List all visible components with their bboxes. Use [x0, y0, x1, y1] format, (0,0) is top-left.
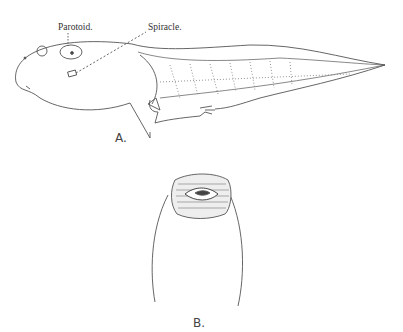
- body-tail-boundary: [140, 55, 157, 104]
- parotoid-pore: [71, 52, 74, 55]
- beak-opening: [195, 191, 210, 196]
- figure-b-mouth-view: [152, 174, 242, 306]
- tail-fin-upper: [132, 44, 385, 65]
- spiracle-leader-line: [76, 32, 146, 73]
- hind-leg: [149, 100, 215, 123]
- tadpole-plate: Parotoid. Spiracle. A. B.: [0, 0, 403, 332]
- tadpole-body-outline: [16, 42, 150, 138]
- tail-fin-lower: [215, 65, 385, 109]
- tail-myotomes: [160, 61, 350, 98]
- figure-a-tadpole: [16, 32, 385, 138]
- spiracle: [68, 70, 77, 77]
- eye-icon: [37, 46, 47, 56]
- parotoid-label: Parotoid.: [58, 22, 93, 32]
- figure-b-label: B.: [193, 316, 205, 330]
- mouth: [26, 86, 30, 89]
- spiracle-label: Spiracle.: [148, 22, 182, 32]
- nostril: [24, 57, 26, 59]
- figure-a-label: A.: [115, 131, 127, 145]
- tail-muscle-upper: [138, 52, 385, 65]
- tail-muscle-lower: [160, 65, 385, 98]
